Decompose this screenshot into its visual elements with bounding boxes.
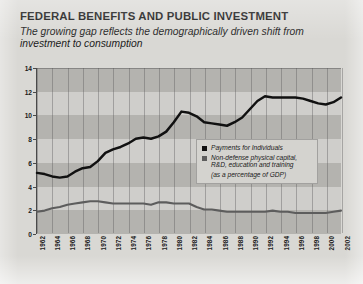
x-axis-tick-label: 1962 [39,236,46,250]
y-axis-tick-mark [33,163,36,164]
legend-item-investment: Non-defense physical capital, R&D, educa… [202,154,312,169]
y-axis-tick-mark [33,92,36,93]
y-axis-tick-label: 14 [25,65,32,72]
y-axis-tick-label: 4 [28,183,32,190]
x-axis-tick-label: 1976 [145,236,152,250]
x-axis-tick-label: 1990 [252,236,259,250]
x-axis-tick-label: 1974 [130,236,137,250]
x-axis-tick-label: 1992 [267,236,274,250]
x-axis-tick-label: 1984 [206,236,213,250]
y-axis-tick-label: 0 [28,231,32,238]
x-axis-tick-label: 1998 [313,236,320,250]
legend-label-investment: Non-defense physical capital, R&D, educa… [211,154,312,169]
x-axis-tick-label: 1980 [176,236,183,250]
y-axis-tick-mark [33,234,36,235]
legend-units-note: (as a percentage of GDP) [211,171,312,179]
legend-swatch-icon [202,156,207,161]
x-axis-tick-label: 1986 [222,236,229,250]
chart-subtitle: The growing gap reflects the demographic… [20,26,342,50]
x-axis-tick-label: 1994 [283,236,290,250]
chart-figure: FEDERAL BENEFITS AND PUBLIC INVESTMENT T… [0,0,363,284]
y-axis-tick-label: 2 [28,207,32,214]
y-axis-tick-label: 6 [28,159,32,166]
line-non-defense-investment [37,201,341,213]
y-axis-tick-label: 8 [28,136,32,143]
y-axis-tick-label: 10 [25,112,32,119]
x-axis: 1962196419661968197019721974197619781980… [36,236,341,280]
x-axis-tick-label: 1972 [115,236,122,250]
x-axis-tick-label: 2000 [328,236,335,250]
x-axis-tick-label: 1968 [84,236,91,250]
x-axis-tick-label: 1978 [161,236,168,250]
x-axis-tick-label: 1996 [298,236,305,250]
chart-header: FEDERAL BENEFITS AND PUBLIC INVESTMENT T… [20,10,346,50]
y-axis-tick-mark [33,187,36,188]
y-axis-tick-label: 12 [25,88,32,95]
y-axis-tick-mark [33,210,36,211]
chart-legend: Payments for Individuals Non-defense phy… [196,139,318,184]
y-axis-tick-mark [33,115,36,116]
legend-swatch-icon [202,146,207,151]
x-axis-tick-label: 1966 [69,236,76,250]
legend-label-payments: Payments for Individuals [211,144,283,152]
x-axis-tick-label: 1982 [191,236,198,250]
chart-title: FEDERAL BENEFITS AND PUBLIC INVESTMENT [20,10,346,23]
x-axis-tick-label: 1970 [100,236,107,250]
y-axis-tick-mark [33,139,36,140]
gridline [342,68,343,233]
x-axis-tick-label: 1964 [54,236,61,250]
x-axis-tick-label: 2002 [344,236,351,250]
x-axis-tick-label: 1988 [237,236,244,250]
legend-item-payments: Payments for Individuals [202,144,312,152]
y-axis-tick-mark [33,68,36,69]
